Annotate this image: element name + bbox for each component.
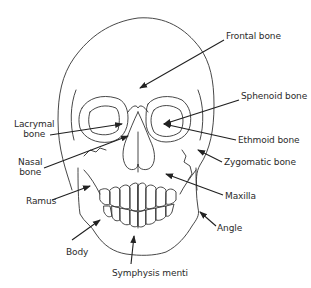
- orbit-right: [146, 97, 191, 142]
- skull-diagram: Frontal bone Sphenoid bone Lacrymal bone…: [0, 0, 311, 288]
- nasal-bridge: [128, 106, 148, 112]
- temporal-line-left: [71, 90, 76, 140]
- orbit-right-inner: [151, 106, 183, 137]
- arrow-ethmoid: [164, 124, 236, 140]
- zygomatic-suture-right: [182, 150, 192, 180]
- arrow-lacrymal: [50, 124, 122, 135]
- label-body: Body: [66, 247, 88, 257]
- label-lacrymal-bone: Lacrymal bone: [14, 119, 55, 139]
- label-nasal-line1: Nasal: [18, 157, 42, 167]
- orbit-left-inner: [89, 106, 120, 135]
- label-nasal-bone: Nasal bone: [18, 157, 42, 177]
- maxilla-left: [84, 170, 100, 194]
- arrow-symphysis: [131, 236, 134, 264]
- arrow-zygomatic: [198, 150, 222, 162]
- label-angle: Angle: [217, 223, 242, 233]
- arrow-maxilla: [166, 174, 223, 195]
- label-maxilla: Maxilla: [225, 191, 256, 201]
- arrow-body: [72, 220, 100, 240]
- label-symphysis-menti: Symphysis menti: [112, 268, 188, 278]
- label-lacrymal-line1: Lacrymal: [14, 119, 55, 129]
- lower-teeth: [104, 204, 174, 227]
- arrow-frontal: [140, 40, 224, 88]
- label-frontal-bone: Frontal bone: [226, 31, 281, 41]
- orbit-left: [79, 96, 128, 142]
- label-lacrymal-line2: bone: [14, 129, 55, 139]
- label-ramus: Ramus: [26, 196, 56, 206]
- label-ethmoid-bone: Ethmoid bone: [238, 135, 300, 145]
- arrow-angle: [200, 212, 216, 226]
- label-nasal-line2: bone: [18, 167, 42, 177]
- label-zygomatic-bone: Zygomatic bone: [224, 157, 296, 167]
- cranium-outline: [58, 18, 214, 190]
- label-sphenoid-bone: Sphenoid bone: [241, 91, 307, 101]
- arrow-nasal: [44, 136, 128, 168]
